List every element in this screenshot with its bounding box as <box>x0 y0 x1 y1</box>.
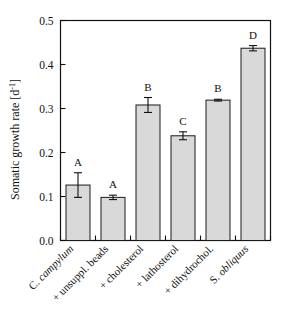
bar <box>136 105 160 241</box>
y-tick-label: 0.3 <box>39 103 54 115</box>
x-axis-ticks <box>61 236 271 241</box>
significance-letter: D <box>249 29 257 41</box>
bar-chart: 0.00.10.20.30.40.5 AABCBD C. campylum+ u… <box>0 0 281 323</box>
figure-container: 0.00.10.20.30.40.5 AABCBD C. campylum+ u… <box>0 0 281 323</box>
bar <box>241 48 265 240</box>
y-tick-label: 0.5 <box>39 15 54 27</box>
y-axis-title-tail: ] <box>8 79 22 83</box>
x-axis-category-labels: C. campylum+ unsuppl. beads+ cholesterol… <box>26 242 251 303</box>
y-axis-title-superscript: -1 <box>8 83 17 90</box>
y-tick-label: 0.4 <box>39 59 54 71</box>
bar <box>171 136 195 241</box>
significance-letter: A <box>109 178 117 190</box>
significance-letter: B <box>214 82 221 94</box>
bar-series <box>66 48 265 240</box>
y-axis-title-text: Somatic growth rate [d <box>8 90 22 200</box>
svg-text:Somatic growth rate [d-1]: Somatic growth rate [d-1] <box>8 79 23 200</box>
significance-letter: A <box>74 156 82 168</box>
plot-frame <box>61 21 271 241</box>
bar <box>101 197 125 240</box>
y-axis-title: Somatic growth rate [d-1] <box>8 79 23 200</box>
significance-letter: C <box>179 115 186 127</box>
significance-letter: B <box>144 81 151 93</box>
y-tick-label: 0.1 <box>39 191 54 203</box>
y-tick-label: 0.2 <box>39 147 54 159</box>
bar <box>206 100 230 240</box>
y-axis-ticks: 0.00.10.20.30.40.5 <box>39 15 65 247</box>
y-tick-label: 0.0 <box>39 235 54 247</box>
